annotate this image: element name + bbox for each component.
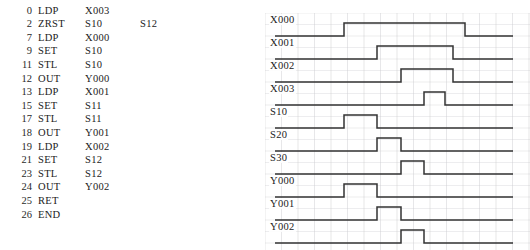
code-step-number: 18: [6, 126, 32, 140]
signal-label-x000: X000: [269, 14, 296, 25]
code-row: 9SETS10: [0, 44, 265, 58]
code-row: 21SETS12: [0, 153, 265, 167]
signal-waveform: [275, 23, 513, 36]
code-row: 12OUTY000: [0, 72, 265, 86]
code-step-number: 7: [6, 31, 32, 45]
signal-label-y001: Y001: [269, 198, 296, 209]
code-instruction: OUT: [38, 180, 60, 194]
code-step-number: 19: [6, 140, 32, 154]
code-operand-1: X000: [85, 31, 110, 45]
code-operand-1: S10: [85, 17, 102, 31]
timing-waveforms: [265, 0, 530, 250]
signal-label-s30: S30: [269, 152, 288, 163]
code-row: 25RET: [0, 194, 265, 208]
code-instruction: LDP: [38, 31, 59, 45]
code-instruction: OUT: [38, 126, 60, 140]
signal-label-s10: S10: [269, 106, 288, 117]
code-step-number: 24: [6, 180, 32, 194]
code-row: 0LDPX003: [0, 4, 265, 18]
code-row: 17STLS11: [0, 112, 265, 126]
code-row: 2ZRSTS10S12: [0, 17, 265, 31]
code-instruction: LDP: [38, 4, 59, 18]
code-instruction: RET: [38, 194, 59, 208]
code-operand-1: S12: [85, 167, 102, 181]
code-instruction: END: [38, 208, 60, 222]
code-instruction: SET: [38, 153, 58, 167]
code-row: 15SETS11: [0, 99, 265, 113]
code-operand-1: Y000: [85, 72, 110, 86]
code-instruction: STL: [38, 58, 58, 72]
signal-waveform: [275, 184, 513, 197]
code-row: 24OUTY002: [0, 180, 265, 194]
signal-waveform: [275, 161, 513, 174]
code-operand-1: S12: [85, 153, 102, 167]
code-instruction: ZRST: [38, 17, 65, 31]
signal-label-x002: X002: [269, 60, 296, 71]
code-operand-1: X001: [85, 85, 110, 99]
code-step-number: 11: [6, 58, 32, 72]
code-operand-1: X003: [85, 4, 110, 18]
code-instruction: LDP: [38, 140, 59, 154]
signal-waveform: [275, 46, 513, 59]
signal-label-s20: S20: [269, 129, 288, 140]
signal-label-x003: X003: [269, 83, 296, 94]
code-operand-1: Y002: [85, 180, 110, 194]
code-step-number: 2: [6, 17, 32, 31]
code-row: 13LDPX001: [0, 85, 265, 99]
code-operand-2: S12: [140, 17, 157, 31]
signal-waveform: [275, 69, 513, 82]
code-operand-1: S10: [85, 44, 102, 58]
signal-waveform: [275, 115, 513, 128]
signal-waveform: [275, 138, 513, 151]
program-listing: 0LDPX0032ZRSTS10S127LDPX0009SETS1011STLS…: [0, 0, 265, 250]
code-step-number: 23: [6, 167, 32, 181]
code-operand-1: S11: [85, 99, 102, 113]
code-step-number: 13: [6, 85, 32, 99]
code-operand-1: X002: [85, 140, 110, 154]
code-step-number: 26: [6, 208, 32, 222]
signal-waveform: [275, 230, 513, 243]
code-instruction: LDP: [38, 85, 59, 99]
code-step-number: 17: [6, 112, 32, 126]
code-row: 26END: [0, 208, 265, 222]
signal-waveform: [275, 207, 513, 220]
code-step-number: 0: [6, 4, 32, 18]
code-row: 23STLS12: [0, 167, 265, 181]
code-operand-1: Y001: [85, 126, 110, 140]
code-operand-1: S10: [85, 58, 102, 72]
code-step-number: 12: [6, 72, 32, 86]
code-instruction: SET: [38, 99, 58, 113]
code-step-number: 15: [6, 99, 32, 113]
timing-diagram: X000X001X002X003S10S20S30Y000Y001Y002: [265, 0, 530, 250]
code-row: 18OUTY001: [0, 126, 265, 140]
code-instruction: SET: [38, 44, 58, 58]
signal-label-x001: X001: [269, 37, 296, 48]
signal-label-y002: Y002: [269, 221, 296, 232]
code-step-number: 25: [6, 194, 32, 208]
code-instruction: STL: [38, 112, 58, 126]
signal-label-y000: Y000: [269, 175, 296, 186]
code-operand-1: S11: [85, 112, 102, 126]
code-row: 7LDPX000: [0, 31, 265, 45]
code-row: 19LDPX002: [0, 140, 265, 154]
code-instruction: OUT: [38, 72, 60, 86]
code-step-number: 21: [6, 153, 32, 167]
code-row: 11STLS10: [0, 58, 265, 72]
code-step-number: 9: [6, 44, 32, 58]
signal-waveform: [275, 92, 513, 105]
code-instruction: STL: [38, 167, 58, 181]
